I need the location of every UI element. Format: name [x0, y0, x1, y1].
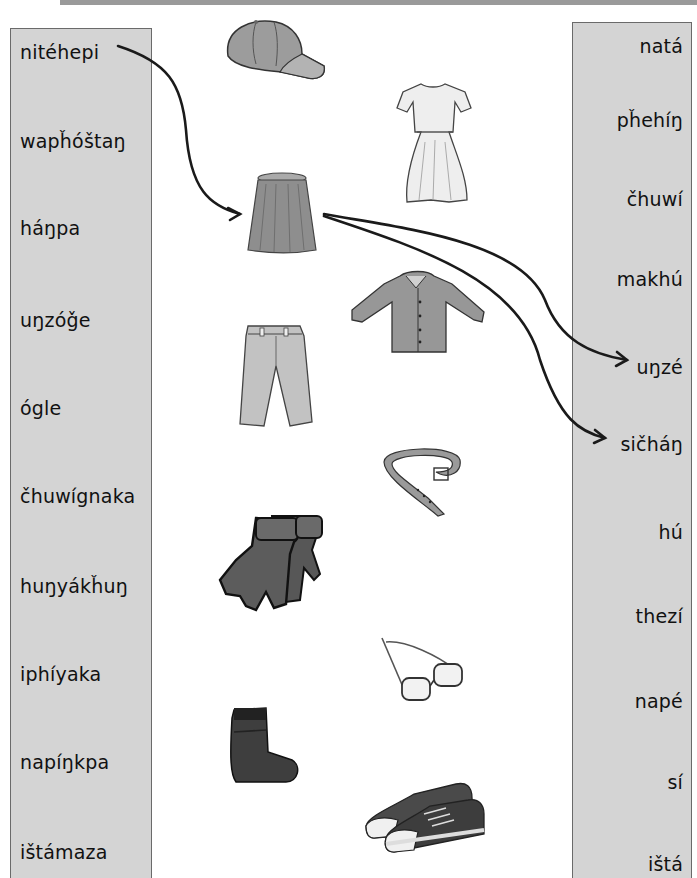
left-word-3[interactable]: háŋpa [20, 217, 80, 239]
gloves-icon[interactable] [216, 510, 330, 612]
left-word-8[interactable]: iphíyaka [20, 663, 101, 685]
skirt-icon[interactable] [244, 170, 320, 254]
right-word-5[interactable]: uŋzé [636, 356, 683, 378]
right-word-2[interactable]: pȟehíŋ [617, 109, 683, 131]
sock-icon[interactable] [226, 704, 302, 784]
pants-icon[interactable] [234, 322, 314, 432]
left-word-7[interactable]: huŋyákȟuŋ [20, 575, 128, 597]
left-word-panel: nitéhepi wapȟóštaŋ háŋpa uŋzóǧe ógle čhu… [10, 28, 152, 878]
left-word-2[interactable]: wapȟóštaŋ [20, 130, 126, 152]
belt-icon[interactable] [378, 442, 464, 518]
right-word-9[interactable]: napé [635, 690, 683, 712]
right-word-8[interactable]: thezí [636, 605, 683, 627]
right-word-1[interactable]: natá [639, 35, 683, 57]
right-word-10[interactable]: sí [667, 771, 683, 793]
sneakers-icon[interactable] [364, 780, 486, 856]
dress-icon[interactable] [395, 82, 473, 206]
left-word-4[interactable]: uŋzóǧe [20, 309, 91, 331]
left-word-9[interactable]: napíŋkpa [20, 751, 109, 773]
left-word-5[interactable]: ógle [20, 397, 61, 419]
right-word-7[interactable]: hú [659, 521, 683, 543]
right-word-6[interactable]: sičháŋ [620, 433, 683, 455]
left-word-6[interactable]: čhuwígnaka [20, 485, 135, 507]
left-word-1[interactable]: nitéhepi [20, 41, 99, 63]
left-word-10[interactable]: ištámaza [20, 841, 108, 863]
right-word-4[interactable]: makhú [617, 268, 683, 290]
right-word-panel: natá pȟehíŋ čhuwí makhú uŋzé sičháŋ hú t… [572, 22, 692, 878]
top-rule [60, 0, 697, 5]
glasses-icon[interactable] [376, 634, 468, 704]
shirt-icon[interactable] [348, 270, 488, 356]
right-word-3[interactable]: čhuwí [627, 188, 683, 210]
cap-icon[interactable] [222, 14, 330, 84]
right-word-11[interactable]: ištá [648, 853, 683, 875]
